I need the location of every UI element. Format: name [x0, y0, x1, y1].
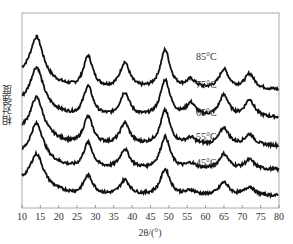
x-tick-label: 55	[182, 211, 192, 222]
x-tick-label: 60	[201, 211, 211, 222]
series-label: 85°C	[196, 51, 217, 62]
x-tick-label: 75	[256, 211, 266, 222]
series-curves	[22, 36, 278, 197]
x-tick-label: 70	[237, 211, 247, 222]
series-label: 55°C	[196, 131, 217, 142]
xrd-chart: 101520253035404550556065707580 85°C75°C6…	[0, 0, 293, 244]
x-tick-label: 80	[274, 211, 284, 222]
series-label: 45°C	[196, 157, 217, 168]
x-tick-label: 45	[146, 211, 156, 222]
series-curve	[22, 36, 278, 90]
x-tick-label: 40	[127, 211, 137, 222]
x-tick-label: 65	[219, 211, 229, 222]
series-curve	[22, 67, 278, 118]
x-tick-label: 10	[17, 211, 27, 222]
series-label: 75°C	[196, 79, 217, 90]
x-tick-label: 20	[54, 211, 64, 222]
y-axis-title: 相对强度	[2, 85, 14, 125]
x-tick-label: 15	[35, 211, 45, 222]
x-tick-label: 50	[164, 211, 174, 222]
series-labels: 85°C75°C65°C55°C45°C	[196, 51, 217, 168]
series-curve	[22, 122, 278, 170]
x-tick-label: 25	[72, 211, 82, 222]
x-axis-title: 2θ/(°)	[138, 227, 161, 239]
x-tick-label: 30	[90, 211, 100, 222]
series-curve	[22, 96, 278, 146]
series-label: 65°C	[196, 107, 217, 118]
x-tick-label: 35	[109, 211, 119, 222]
